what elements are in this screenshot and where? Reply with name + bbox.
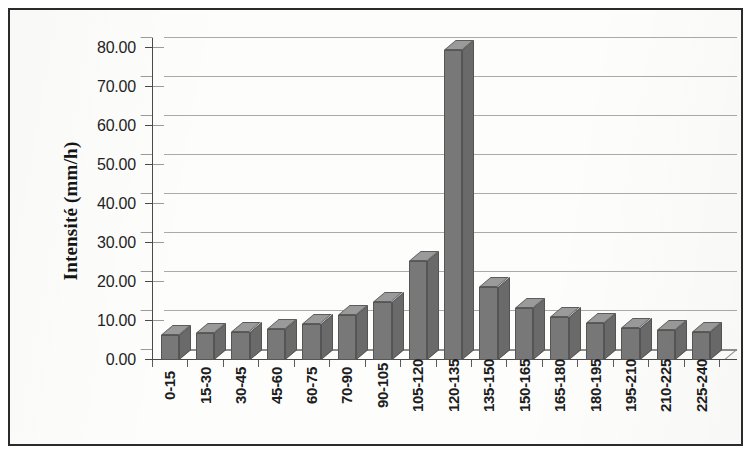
x-axis-tick-label: 225-240: [684, 368, 719, 450]
bar[interactable]: [161, 335, 179, 360]
bar[interactable]: [657, 330, 675, 360]
bar[interactable]: [302, 324, 320, 360]
bar-slot: [267, 38, 285, 360]
x-axis-tick-label-text: 210-225: [657, 359, 674, 412]
x-axis-tick-label: 70-90: [329, 368, 364, 450]
x-axis-tick: [294, 360, 295, 367]
x-axis-tick-label: 105-120: [400, 368, 435, 450]
x-axis-tick-label: 165-180: [542, 368, 577, 450]
bar-front-face: [444, 50, 462, 360]
bar-front-face: [550, 317, 568, 360]
x-axis-tick: [400, 360, 401, 367]
bar[interactable]: [267, 329, 285, 360]
bar[interactable]: [586, 323, 604, 360]
x-axis-tick-label: 90-105: [365, 368, 400, 450]
x-axis-tick-label: 60-75: [294, 368, 329, 450]
x-axis-tick-label-text: 105-120: [409, 359, 426, 412]
x-axis-tick: [471, 360, 472, 367]
bar-front-face: [621, 328, 639, 360]
x-axis-tick-label: 195-210: [613, 368, 648, 450]
x-axis-tick-label-text: 165-180: [551, 359, 568, 412]
chart-frame: Intensité (mm/h) 0.0010.0020.0030.0040.0…: [8, 8, 743, 446]
x-axis-tick-label-text: 60-75: [303, 367, 320, 404]
x-axis-tick-label-text: 15-30: [197, 367, 214, 404]
bar-slot: [373, 38, 391, 360]
y-axis-title: Intensité (mm/h): [56, 106, 86, 316]
x-axis-tick: [187, 360, 188, 367]
y-axis-title-text: Intensité (mm/h): [60, 142, 82, 281]
bar[interactable]: [196, 333, 214, 360]
bar-front-face: [161, 335, 179, 360]
x-axis-tick: [329, 360, 330, 367]
bar-front-face: [196, 333, 214, 360]
x-axis-tick-label-text: 45-60: [268, 367, 285, 404]
bar-side-face: [392, 292, 404, 360]
bar-slot: [657, 38, 675, 360]
bar-front-face: [231, 332, 249, 360]
x-axis-tick-label: 0-15: [152, 368, 187, 450]
x-axis-tick-label: 120-135: [436, 368, 471, 450]
bar-slot: [692, 38, 710, 360]
bar[interactable]: [231, 332, 249, 360]
x-axis-labels: 0-1515-3030-4545-6060-7570-9090-105105-1…: [152, 368, 737, 450]
y-axis-tick: 20.00: [145, 281, 152, 282]
bar[interactable]: [621, 328, 639, 360]
x-axis-tick-label-text: 150-165: [516, 359, 533, 412]
y-axis-tick-label: 40.00: [97, 195, 136, 213]
bar-slot: [550, 38, 568, 360]
bar-slot: [479, 38, 497, 360]
y-axis-tick-label: 80.00: [97, 39, 136, 57]
bar[interactable]: [692, 332, 710, 360]
bar[interactable]: [338, 315, 356, 360]
x-axis-tick-label-text: 135-150: [480, 359, 497, 412]
plot-area: 0.0010.0020.0030.0040.0050.0060.0070.008…: [152, 38, 737, 360]
bar[interactable]: [515, 308, 533, 360]
x-axis-tick-label-text: 225-240: [693, 359, 710, 412]
bar-side-face: [427, 251, 439, 360]
bar-slot: [409, 38, 427, 360]
x-axis-tick-label: 180-195: [577, 368, 612, 450]
x-axis-tick: [365, 360, 366, 367]
bar-slot: [231, 38, 249, 360]
bar-front-face: [302, 324, 320, 360]
x-axis-tick-label-text: 70-90: [338, 367, 355, 404]
bar-slot: [515, 38, 533, 360]
bar[interactable]: [444, 50, 462, 360]
y-axis-tick-label: 30.00: [97, 234, 136, 252]
x-axis-tick: [223, 360, 224, 367]
bar-front-face: [586, 323, 604, 360]
bar-slot: [621, 38, 639, 360]
bar-slot: [161, 38, 179, 360]
x-axis-tick: [258, 360, 259, 367]
x-axis-tick: [542, 360, 543, 367]
bar-front-face: [692, 332, 710, 360]
x-axis-tick-label: 30-45: [223, 368, 258, 450]
x-axis-tick: [152, 360, 153, 367]
y-axis-tick-label: 0.00: [106, 351, 136, 369]
bar-slot: [338, 38, 356, 360]
bar[interactable]: [373, 302, 391, 360]
x-axis-tick: [719, 360, 720, 367]
x-axis-tick-label-text: 90-105: [374, 363, 391, 408]
bar-front-face: [267, 329, 285, 360]
x-axis-tick: [577, 360, 578, 367]
x-axis-tick: [648, 360, 649, 367]
x-axis-tick-label-text: 120-135: [445, 359, 462, 412]
x-axis-tick-label: 150-165: [506, 368, 541, 450]
bar-slot: [586, 38, 604, 360]
x-axis-tick: [613, 360, 614, 367]
bar[interactable]: [479, 287, 497, 360]
bar-slot: [196, 38, 214, 360]
bar[interactable]: [550, 317, 568, 360]
bar[interactable]: [409, 261, 427, 360]
y-axis-tick-label: 70.00: [97, 78, 136, 96]
x-axis-tick-label-text: 195-210: [622, 359, 639, 412]
bar-front-face: [479, 287, 497, 360]
y-axis-tick: 30.00: [145, 242, 152, 243]
x-axis-tick-label: 15-30: [187, 368, 222, 450]
x-axis-tick: [436, 360, 437, 367]
bar-slot: [302, 38, 320, 360]
bar-side-face: [533, 298, 545, 360]
y-axis-tick-label: 60.00: [97, 117, 136, 135]
y-axis-tick: 50.00: [145, 164, 152, 165]
